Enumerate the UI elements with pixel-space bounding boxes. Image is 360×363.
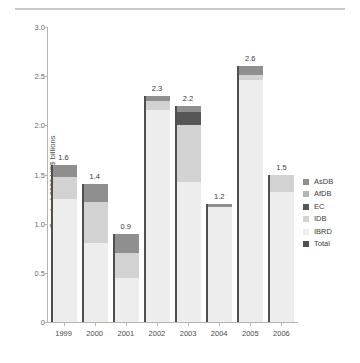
bar-segment-idb	[82, 202, 108, 243]
x-axis-line	[47, 322, 298, 323]
legend-item-total[interactable]: Total	[303, 239, 333, 250]
x-tick-label-1999: 1999	[51, 329, 77, 338]
legend-item-asdb[interactable]: AsDB	[303, 176, 333, 187]
bar-segment-idb	[144, 101, 170, 110]
legend-swatch-icon	[303, 216, 309, 222]
x-tick-mark	[64, 322, 65, 326]
legend-label: EC	[314, 203, 324, 211]
bar-segment-ibrd	[82, 243, 108, 322]
bar-segment-ibrd	[175, 182, 201, 322]
bar-group: 1.619991.420000.920012.320022.220031.220…	[48, 27, 297, 322]
bar-segment-ibrd	[113, 278, 139, 322]
bar-segment-ibrd	[206, 207, 232, 322]
x-tick-label-2000: 2000	[82, 329, 108, 338]
legend-label: IBRD	[314, 228, 332, 236]
chart-figure: Constant 2006 US$ billions 00.51.01.52.0…	[0, 0, 360, 363]
bar-value-label: 2.6	[237, 54, 263, 63]
bar-value-label: 2.3	[144, 84, 170, 93]
stacked-bar[interactable]	[144, 96, 170, 322]
x-tick-mark	[250, 322, 251, 326]
y-tick-mark	[44, 322, 48, 323]
x-tick-label-2005: 2005	[237, 329, 263, 338]
bar-segment-asdb	[51, 165, 77, 178]
bar-total-edge	[82, 184, 84, 322]
chart-legend: AsDBAfDBECIDBIBRDTotal	[303, 176, 333, 251]
legend-swatch-icon	[303, 179, 309, 185]
bar-value-label: 1.6	[51, 153, 77, 162]
x-tick-label-2006: 2006	[268, 329, 294, 338]
bar-segment-idb	[268, 175, 294, 193]
bar-segment-ibrd	[237, 80, 263, 322]
bar-segment-idb	[113, 253, 139, 278]
x-tick-label-2001: 2001	[113, 329, 139, 338]
legend-label: IDB	[314, 215, 327, 223]
bar-segment-idb	[51, 177, 77, 199]
legend-item-afdb[interactable]: AfDB	[303, 189, 333, 200]
top-divider	[15, 8, 345, 10]
bar-segment-ibrd	[144, 110, 170, 322]
legend-item-ec[interactable]: EC	[303, 201, 333, 212]
bar-segment-idb	[175, 125, 201, 182]
bar-total-edge	[237, 66, 239, 322]
bar-value-label: 1.4	[82, 172, 108, 181]
x-tick-label-2002: 2002	[144, 329, 170, 338]
stacked-bar[interactable]	[237, 66, 263, 322]
stacked-bar[interactable]	[268, 175, 294, 323]
bar-value-label: 1.2	[206, 192, 232, 201]
legend-item-idb[interactable]: IDB	[303, 214, 333, 225]
legend-label: Total	[314, 240, 330, 248]
x-tick-mark	[95, 322, 96, 326]
bar-total-edge	[144, 96, 146, 322]
x-tick-label-2004: 2004	[206, 329, 232, 338]
legend-swatch-icon	[303, 204, 309, 210]
bar-total-edge	[113, 234, 115, 323]
legend-swatch-icon	[303, 229, 309, 235]
bar-segment-asdb	[113, 234, 139, 254]
x-tick-label-2003: 2003	[175, 329, 201, 338]
bar-value-label: 0.9	[113, 222, 139, 231]
x-tick-mark	[188, 322, 189, 326]
bar-value-label: 2.2	[175, 94, 201, 103]
bar-total-edge	[175, 106, 177, 322]
stacked-bar[interactable]	[51, 165, 77, 322]
stacked-bar[interactable]	[206, 204, 232, 322]
stacked-bar[interactable]	[82, 184, 108, 322]
bar-total-edge	[268, 175, 270, 323]
plot-area: 00.51.01.52.02.53.0 1.619991.420000.9200…	[48, 27, 297, 322]
bar-segment-ibrd	[268, 192, 294, 322]
legend-item-ibrd[interactable]: IBRD	[303, 226, 333, 237]
stacked-bar[interactable]	[175, 106, 201, 322]
x-tick-mark	[126, 322, 127, 326]
bar-total-edge	[206, 204, 208, 322]
bar-total-edge	[51, 165, 53, 322]
stacked-bar[interactable]	[113, 234, 139, 323]
x-tick-mark	[281, 322, 282, 326]
legend-swatch-icon	[303, 241, 309, 247]
bar-segment-asdb	[82, 184, 108, 202]
legend-label: AsDB	[314, 178, 333, 186]
bar-segment-ibrd	[51, 199, 77, 322]
legend-swatch-icon	[303, 191, 309, 197]
x-tick-mark	[157, 322, 158, 326]
legend-label: AfDB	[314, 190, 332, 198]
bar-segment-ec	[175, 112, 201, 126]
x-tick-mark	[219, 322, 220, 326]
bar-value-label: 1.5	[268, 163, 294, 172]
bar-segment-asdb	[237, 66, 263, 75]
